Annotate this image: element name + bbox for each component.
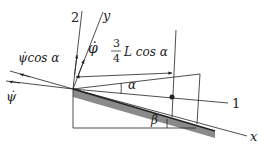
label-axis-y: y: [102, 8, 111, 23]
center-dot: [170, 95, 175, 100]
y-axis-arrow: [78, 60, 84, 76]
label-alpha: α: [128, 78, 136, 92]
psi-cos-arrowhead: [20, 74, 30, 77]
x-axis: [73, 89, 247, 136]
rod-shading: [73, 89, 215, 138]
label-phi-dot: φ̇: [88, 40, 98, 56]
label-fraction-den: 4: [113, 52, 120, 65]
label-psi-cos: ψ̇cos α: [18, 51, 59, 65]
label-fraction-num: 3: [113, 37, 120, 50]
axis-2-arrow: [75, 55, 78, 75]
label-length-expr: L cos α: [123, 45, 168, 59]
label-axis-2: 2: [71, 10, 79, 25]
right-edge: [197, 74, 200, 124]
label-beta: β: [150, 113, 158, 127]
label-axis-1: 1: [232, 96, 240, 111]
center-vertical: [172, 30, 176, 117]
label-axis-x: x: [250, 129, 258, 144]
psi-cos-arrow: [10, 71, 73, 89]
kinematics-diagram: 2 y φ̇ 3 4 L cos α ψ̇cos α ψ̇ α β 1 x: [0, 0, 258, 150]
label-psi-dot: ψ̇: [6, 89, 17, 104]
dimension-arrow: [76, 73, 172, 77]
